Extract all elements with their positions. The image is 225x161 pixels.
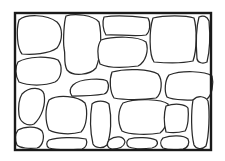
stone-shape	[46, 96, 87, 133]
stone-shape	[165, 104, 189, 132]
stone-shape	[192, 97, 209, 149]
stone-shape	[110, 70, 161, 100]
stone-shape	[98, 37, 147, 67]
stone-shape	[165, 72, 213, 100]
stone-shape	[91, 101, 111, 148]
stone-wall-diagram	[0, 0, 225, 161]
stone-shape	[16, 127, 44, 148]
stone-shape	[119, 100, 169, 135]
stone-shape	[127, 138, 158, 149]
stone-shape	[16, 57, 61, 85]
stone-shape	[107, 137, 125, 149]
stone-shape	[64, 15, 101, 75]
stone-shape	[103, 16, 150, 36]
stone-shape	[150, 16, 196, 63]
stone-shape	[196, 16, 209, 63]
stones-group	[16, 15, 213, 150]
stone-shape	[19, 88, 45, 125]
stone-shape	[47, 138, 87, 150]
stone-shape	[161, 136, 189, 150]
stone-shape	[17, 16, 61, 55]
stone-shape	[70, 79, 108, 96]
